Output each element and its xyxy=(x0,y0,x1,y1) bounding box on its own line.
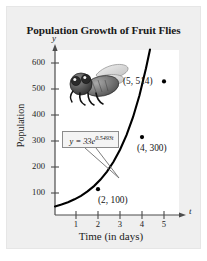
y-tick-label-100: 100 xyxy=(17,187,45,197)
exponential-curve xyxy=(55,50,150,207)
y-axis-arrow xyxy=(52,44,57,51)
x-tick-label-4: 4 xyxy=(136,219,148,229)
chart-panel: Population Growth of Fruit Flies xyxy=(6,6,201,249)
y-axis-title: Population xyxy=(15,71,26,181)
figure-canvas: Population Growth of Fruit Flies xyxy=(0,0,207,261)
annotation-5-514: (5, 514) xyxy=(123,76,153,86)
x-axis-title: Time (in days) xyxy=(36,230,186,242)
plot-svg xyxy=(6,6,201,249)
x-axis-arrow xyxy=(179,212,186,217)
equation-exponent: 0.5493t xyxy=(95,135,113,141)
data-point-5-514 xyxy=(162,79,166,83)
x-tick-label-3: 3 xyxy=(114,219,126,229)
annotation-2-100: (2, 100) xyxy=(98,195,128,205)
equation-base: y = 33e xyxy=(70,137,96,146)
x-axis-name: t xyxy=(189,206,192,216)
annotation-4-300: (4, 300) xyxy=(137,143,167,153)
equation-text: y = 33e0.5493t xyxy=(63,135,120,146)
data-point-2-100 xyxy=(96,187,100,191)
callout-leader-right xyxy=(96,148,119,178)
equation-callout-box: y = 33e0.5493t xyxy=(62,131,119,148)
x-tick-label-1: 1 xyxy=(70,219,82,229)
x-tick-label-5: 5 xyxy=(158,219,170,229)
y-axis-name: y xyxy=(52,33,56,43)
x-tick-label-2: 2 xyxy=(92,219,104,229)
data-point-4-300 xyxy=(140,135,144,139)
y-tick-label-600: 600 xyxy=(17,57,45,67)
